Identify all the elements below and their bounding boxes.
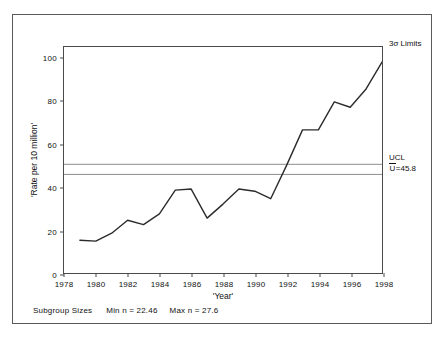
x-tick-label: 1982	[119, 280, 138, 289]
y-tick-mark	[60, 144, 64, 145]
x-tick-mark	[320, 273, 321, 277]
plot-area[interactable]: 020406080100 197819801982198419861988199…	[63, 46, 383, 274]
control-chart-window: 'Rate per 10 million' 020406080100 19781…	[12, 14, 432, 324]
sigma-limits-label: 3σ Limits	[389, 39, 422, 49]
x-tick-label: 1986	[183, 280, 202, 289]
plot-canvas	[64, 47, 382, 273]
centerline-label: U=45.8	[389, 163, 416, 174]
x-tick-mark	[160, 273, 161, 277]
x-tick-mark	[192, 273, 193, 277]
x-tick-label: 1992	[279, 280, 298, 289]
max-n-value: Max n = 27.6	[170, 306, 219, 315]
subgroup-sizes-footer: Subgroup SizesMin n = 22.46Max n = 27.6	[33, 306, 218, 315]
y-tick-mark	[60, 231, 64, 232]
x-tick-mark	[288, 273, 289, 277]
x-tick-label: 1984	[151, 280, 170, 289]
x-tick-mark	[256, 273, 257, 277]
y-axis-title: 'Rate per 10 million'	[27, 46, 41, 274]
x-axis-title: 'Year'	[63, 291, 383, 301]
x-tick-mark	[64, 273, 65, 277]
y-tick-label: 20	[48, 227, 58, 236]
x-tick-mark	[352, 273, 353, 277]
x-tick-mark	[128, 273, 129, 277]
y-tick-mark	[60, 188, 64, 189]
x-tick-label: 1988	[215, 280, 234, 289]
centerline-value: =45.8	[396, 164, 416, 173]
ucl-label: UCL	[389, 153, 405, 163]
y-tick-label: 0	[52, 271, 57, 280]
y-tick-mark	[60, 101, 64, 102]
u-bar-symbol: U	[389, 163, 396, 173]
min-n-value: Min n = 22.46	[106, 306, 157, 315]
control-limit-lines	[64, 164, 382, 174]
y-tick-label: 60	[48, 140, 58, 149]
y-tick-label: 40	[48, 184, 58, 193]
x-tick-mark	[96, 273, 97, 277]
y-tick-label: 100	[43, 53, 57, 62]
subgroup-sizes-label: Subgroup Sizes	[33, 306, 92, 315]
x-tick-mark	[224, 273, 225, 277]
y-tick-mark	[60, 57, 64, 58]
x-tick-label: 1996	[343, 280, 362, 289]
x-tick-label: 1980	[87, 280, 106, 289]
x-tick-label: 1994	[311, 280, 330, 289]
x-tick-label: 1978	[55, 280, 74, 289]
x-tick-label: 1990	[247, 280, 266, 289]
data-series-line	[80, 62, 382, 241]
x-tick-label: 1998	[375, 280, 394, 289]
x-tick-mark	[384, 273, 385, 277]
y-tick-label: 80	[48, 97, 58, 106]
